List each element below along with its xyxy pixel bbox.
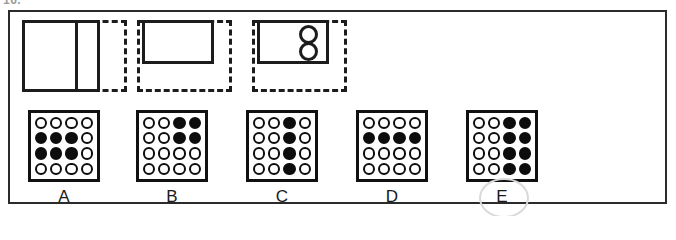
answer-option-letter: C xyxy=(276,187,288,206)
empty-dot-icon xyxy=(50,117,62,129)
answer-option-e[interactable]: E xyxy=(458,110,546,207)
empty-dot-icon xyxy=(189,147,201,159)
answer-option-b[interactable]: B xyxy=(128,110,216,207)
dot-cell xyxy=(503,116,517,130)
dot-cell xyxy=(472,116,486,130)
empty-dot-icon xyxy=(488,132,500,144)
empty-dot-icon xyxy=(473,132,485,144)
empty-dot-icon xyxy=(409,117,421,129)
empty-dot-icon xyxy=(158,163,170,175)
empty-dot-icon xyxy=(81,132,93,144)
dot-cell xyxy=(377,162,391,176)
answer-option-c[interactable]: C xyxy=(238,110,326,207)
dot-cell xyxy=(80,162,94,176)
dot-cell xyxy=(362,131,376,145)
dot-cell xyxy=(65,131,79,145)
empty-dot-icon xyxy=(81,163,93,175)
filled-dot-icon xyxy=(393,132,405,144)
empty-dot-icon xyxy=(81,117,93,129)
solid-rectangle-shape xyxy=(22,20,100,92)
dot-cell xyxy=(188,116,202,130)
filled-dot-icon xyxy=(519,147,531,159)
answer-option-label: C xyxy=(238,187,326,207)
empty-dot-icon xyxy=(65,117,77,129)
filled-dot-icon xyxy=(65,147,77,159)
empty-dot-icon xyxy=(393,117,405,129)
empty-dot-icon xyxy=(393,163,405,175)
empty-dot-icon xyxy=(409,163,421,175)
dot-cell xyxy=(142,116,156,130)
dot-cell xyxy=(408,162,422,176)
empty-dot-icon xyxy=(158,132,170,144)
dot-cell xyxy=(49,131,63,145)
dot-cell xyxy=(377,131,391,145)
dot-cell xyxy=(362,147,376,161)
dot-cell xyxy=(518,131,532,145)
filled-dot-icon xyxy=(283,132,295,144)
circle-shape-bottom xyxy=(299,42,318,61)
dot-cell xyxy=(157,147,171,161)
dot-cell xyxy=(252,147,266,161)
dot-cell xyxy=(283,116,297,130)
dot-cell xyxy=(80,131,94,145)
dot-cell xyxy=(80,116,94,130)
empty-dot-icon xyxy=(299,132,311,144)
empty-dot-icon xyxy=(473,163,485,175)
empty-dot-icon xyxy=(173,163,185,175)
dot-cell xyxy=(157,131,171,145)
answer-option-d[interactable]: D xyxy=(348,110,436,207)
filled-dot-icon xyxy=(519,132,531,144)
dot-cell xyxy=(252,131,266,145)
filled-dot-icon xyxy=(50,147,62,159)
empty-dot-icon xyxy=(143,147,155,159)
empty-dot-icon xyxy=(189,163,201,175)
answer-option-label: B xyxy=(128,187,216,207)
dot-cell xyxy=(472,131,486,145)
filled-dot-icon xyxy=(363,132,375,144)
problem-figure-1 xyxy=(22,20,127,92)
filled-dot-icon xyxy=(378,132,390,144)
dot-cell xyxy=(283,131,297,145)
filled-dot-icon xyxy=(65,132,77,144)
dot-cell xyxy=(298,131,312,145)
empty-dot-icon xyxy=(378,117,390,129)
answer-option-a[interactable]: A xyxy=(20,110,108,207)
filled-dot-icon xyxy=(283,147,295,159)
dot-grid xyxy=(246,110,318,182)
filled-dot-icon xyxy=(503,117,515,129)
empty-dot-icon xyxy=(158,117,170,129)
empty-dot-icon xyxy=(143,163,155,175)
dot-cell xyxy=(252,162,266,176)
dot-cell xyxy=(362,162,376,176)
empty-dot-icon xyxy=(299,147,311,159)
dot-cell xyxy=(487,147,501,161)
empty-dot-icon xyxy=(473,147,485,159)
dot-cell xyxy=(173,147,187,161)
empty-dot-icon xyxy=(268,163,280,175)
filled-dot-icon xyxy=(519,117,531,129)
dot-cell xyxy=(503,162,517,176)
filled-dot-icon xyxy=(35,132,47,144)
empty-dot-icon xyxy=(473,117,485,129)
dot-cell xyxy=(362,116,376,130)
empty-dot-icon xyxy=(81,147,93,159)
empty-dot-icon xyxy=(253,117,265,129)
dot-cell xyxy=(173,162,187,176)
filled-dot-icon xyxy=(503,147,515,159)
dot-cell xyxy=(487,116,501,130)
empty-dot-icon xyxy=(363,147,375,159)
empty-dot-icon xyxy=(488,117,500,129)
answer-option-label: E xyxy=(458,187,546,207)
empty-dot-icon xyxy=(378,163,390,175)
empty-dot-icon xyxy=(65,163,77,175)
dot-cell xyxy=(283,162,297,176)
dot-cell xyxy=(188,131,202,145)
filled-dot-icon xyxy=(503,163,515,175)
dot-cell xyxy=(65,162,79,176)
dot-cell xyxy=(34,162,48,176)
answer-option-label: A xyxy=(20,187,108,207)
problem-figure-2 xyxy=(137,20,232,92)
empty-dot-icon xyxy=(393,147,405,159)
problem-figure-3 xyxy=(252,20,347,92)
empty-dot-icon xyxy=(268,147,280,159)
